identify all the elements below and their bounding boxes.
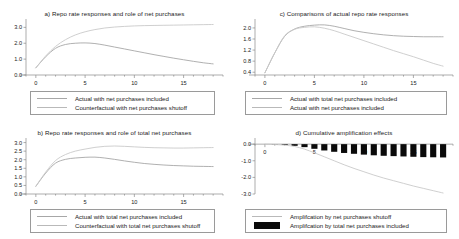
y-tick-label: 2.0 (243, 25, 251, 31)
bar (420, 144, 426, 157)
panel-c-plot: 0.40.81.21.62.0051015 (229, 17, 459, 91)
bar (391, 144, 397, 156)
legend-item: Actual with net purchases included (35, 94, 210, 103)
legend-line-icon (35, 107, 69, 108)
panel-a-svg: 0.01.02.03.0051015 (0, 17, 229, 89)
y-tick-label: 0.4 (243, 69, 251, 75)
x-tick-label: 5 (84, 80, 87, 86)
y-tick-label: 3.0 (14, 140, 22, 146)
panel-a-title: a) Repo rate responses and role of net p… (0, 10, 229, 17)
legend-line-icon (35, 225, 69, 226)
bar (361, 144, 367, 154)
series-line (265, 25, 443, 73)
legend-line-icon (250, 98, 284, 99)
panel-c-svg: 0.40.81.21.62.0051015 (229, 17, 459, 89)
legend-line-icon (250, 216, 284, 217)
x-tick-label: 5 (313, 80, 316, 86)
bar (331, 144, 337, 152)
legend-label: Actual with net purchases included (290, 104, 384, 111)
bar (351, 144, 357, 154)
y-tick-label: -1.0 (241, 158, 251, 164)
x-tick-label: 10 (131, 80, 137, 86)
legend-item: Amplifcation by net purchases shutoff (250, 212, 442, 221)
bar (292, 144, 298, 146)
bar (321, 144, 327, 150)
x-tick-label: 5 (84, 199, 87, 205)
legend-item: Amplifcation by total net purchases incl… (250, 221, 442, 230)
y-tick-label: -2.0 (241, 174, 251, 180)
y-tick-label: 0.0 (14, 191, 22, 197)
panel-d-svg: 0.0-1.0-2.0-3.0051015 (229, 136, 459, 208)
legend-label: Actual with total net purchases included (290, 95, 397, 102)
panel-c: c) Comparisons of actual repo rate respo… (229, 0, 459, 119)
bar (381, 144, 387, 156)
panel-a-plot: 0.01.02.03.0051015 (0, 17, 229, 91)
y-tick-label: 1.5 (14, 165, 22, 171)
legend-item: Actual with net purchases included (250, 103, 442, 112)
y-tick-label: -3.0 (241, 191, 251, 197)
panel-d-legend: Amplifcation by net purchases shutoff Am… (245, 209, 447, 233)
x-tick-label: 10 (131, 199, 137, 205)
legend-label: Counterfactual with net purchases shutof… (75, 104, 187, 111)
x-tick-label: 15 (180, 80, 186, 86)
series-line (36, 24, 213, 67)
series-line (36, 43, 213, 68)
legend-label: Actual with total net purchases included (75, 213, 182, 220)
y-tick-label: 1.2 (243, 47, 251, 53)
panel-a: a) Repo rate responses and role of net p… (0, 0, 229, 119)
x-tick-label: 0 (263, 80, 266, 86)
bar (400, 144, 406, 156)
y-tick-label: 1.6 (243, 36, 251, 42)
y-tick-label: 0.0 (14, 72, 22, 78)
bar (430, 144, 436, 157)
legend-line-icon (35, 216, 69, 217)
bar (311, 144, 317, 149)
legend-line-icon (250, 107, 284, 108)
y-tick-label: 1.0 (14, 56, 22, 62)
panel-b-title: b) Repo rate responses and role of total… (0, 129, 229, 136)
x-tick-label: 0 (263, 149, 266, 155)
y-tick-label: 0.0 (243, 141, 251, 147)
x-tick-label: 15 (410, 80, 416, 86)
figure-grid: a) Repo rate responses and role of net p… (0, 0, 459, 239)
panel-c-title: c) Comparisons of actual repo rate respo… (229, 10, 459, 17)
panel-d-title: d) Cumulative amplification effects (229, 129, 459, 136)
bar (301, 144, 307, 147)
x-tick-label: 0 (34, 80, 37, 86)
legend-item: Counterfactual with net purchases shutof… (35, 103, 210, 112)
bar (440, 144, 446, 157)
legend-label: Counterfactual with total net purchases … (75, 222, 200, 229)
bar (410, 144, 416, 157)
series-line (36, 157, 213, 186)
panel-b-legend: Actual with total net purchases included… (30, 209, 215, 233)
panel-d-plot: 0.0-1.0-2.0-3.0051015 (229, 136, 459, 209)
panel-d: d) Cumulative amplification effects 0.0-… (229, 119, 459, 239)
legend-label: Amplifcation by total net purchases incl… (290, 222, 409, 229)
legend-label: Amplifcation by net purchases shutoff (290, 213, 391, 220)
y-tick-label: 2.0 (14, 40, 22, 46)
panel-b-plot: 0.00.51.01.52.02.53.0051015 (0, 136, 229, 209)
legend-bar-icon (250, 222, 284, 229)
bar (371, 144, 377, 155)
legend-item: Actual with total net purchases included (35, 212, 210, 221)
panel-a-legend: Actual with net purchases included Count… (30, 91, 215, 115)
panel-c-legend: Actual with total net purchases included… (245, 91, 447, 115)
y-tick-label: 0.5 (14, 182, 22, 188)
y-tick-label: 2.0 (14, 157, 22, 163)
series-line (265, 27, 443, 73)
y-tick-label: 3.0 (14, 24, 22, 30)
x-tick-label: 0 (34, 199, 37, 205)
y-tick-label: 2.5 (14, 148, 22, 154)
legend-line-icon (35, 98, 69, 99)
x-tick-label: 15 (180, 199, 186, 205)
legend-item: Counterfactual with total net purchases … (35, 221, 210, 230)
legend-item: Actual with total net purchases included (250, 94, 442, 103)
y-tick-label: 0.8 (243, 58, 251, 64)
panel-b: b) Repo rate responses and role of total… (0, 119, 229, 239)
legend-label: Actual with net purchases included (75, 95, 169, 102)
y-tick-label: 1.0 (14, 174, 22, 180)
bar (341, 144, 347, 153)
x-tick-label: 10 (361, 80, 367, 86)
panel-b-svg: 0.00.51.01.52.02.53.0051015 (0, 136, 229, 208)
